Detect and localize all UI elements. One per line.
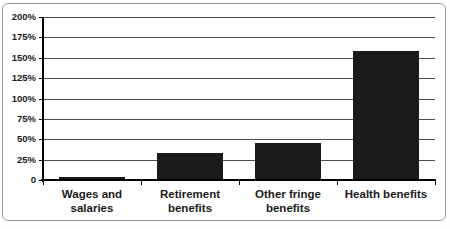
y-gridline xyxy=(43,17,435,18)
y-tick-label: 0 xyxy=(6,175,36,185)
x-axis-line xyxy=(41,179,435,181)
category-label-1: Wages and salaries xyxy=(43,187,141,215)
bar-3 xyxy=(255,143,321,180)
y-tick-label: 75% xyxy=(6,114,36,124)
y-gridline xyxy=(43,37,435,38)
y-tick-label: 50% xyxy=(6,134,36,144)
x-axis-tick xyxy=(435,179,436,185)
bar-2 xyxy=(157,153,223,180)
category-label-2: Retirement benefits xyxy=(141,187,239,215)
y-tick-label: 200% xyxy=(6,12,36,22)
y-tick-label: 100% xyxy=(6,94,36,104)
category-label-4: Health benefits xyxy=(337,187,435,201)
y-tick-label: 150% xyxy=(6,53,36,63)
y-tick-label: 175% xyxy=(6,32,36,42)
y-tick-label: 25% xyxy=(6,155,36,165)
bar-chart: 025%50%75%100%125%150%175%200%Wages and … xyxy=(0,0,450,229)
bar-4 xyxy=(353,51,419,180)
y-axis-line xyxy=(42,17,44,182)
category-label-3: Other fringe benefits xyxy=(239,187,337,215)
y-tick-label: 125% xyxy=(6,73,36,83)
